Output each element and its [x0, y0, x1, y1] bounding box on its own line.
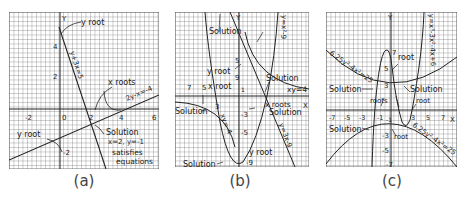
y-tick: -5 [382, 147, 389, 155]
y-axis-label: Y [61, 15, 67, 23]
y-tick: 9 [235, 74, 239, 82]
y-tick: 3 [384, 82, 388, 90]
y-tick: 7 [392, 49, 396, 57]
annotation-y-root: y root [17, 130, 40, 139]
panel-c: Y X -7 -5 -3 -1 3 5 7 7 5 3 -1 -3 -5 -7 … [326, 12, 457, 167]
x-tick: 4 [119, 114, 124, 122]
y-axis-label: Y [387, 14, 393, 22]
annotation-solution: Solution [329, 125, 362, 134]
annotation-root: root [398, 53, 414, 62]
y-tick: -5 [241, 129, 248, 137]
x-tick: -1 [377, 114, 383, 122]
annotation-solution: Solution [329, 85, 362, 94]
x-axis-label: X [450, 116, 455, 124]
y-tick: -3 [382, 132, 389, 140]
y-tick: 4 [53, 43, 58, 51]
y-tick: 5 [384, 65, 388, 73]
y-tick: 5 [235, 57, 239, 65]
y-tick: -7 [386, 161, 393, 167]
x-tick: 0 [62, 114, 66, 122]
annotation-y-root: y root [207, 67, 230, 76]
caption-b: (b) [220, 172, 260, 190]
y-tick: 1 [241, 86, 245, 93]
x-axis-label: X [303, 102, 308, 110]
x-tick: -3 [359, 114, 365, 122]
x-tick: 6 [152, 114, 157, 122]
x-tick: -7 [329, 114, 335, 122]
annotation-solution: Solution [209, 27, 242, 36]
curve-label: y=x²-9 [279, 15, 288, 39]
y-axis-label: Y [235, 14, 241, 22]
annotation-solution: Solution [175, 107, 208, 116]
annotation-y-root: y root [249, 148, 272, 157]
annotation-roots: roots [370, 97, 388, 105]
annotation-solution: Solution [183, 160, 216, 167]
annotation-root: root [394, 133, 408, 141]
panel-b: Y X 7 5 5 9 1 3 -3 -5 -9 y=x²-9 xy=4 xy=… [175, 12, 309, 167]
x-tick: -2 [25, 114, 32, 122]
annotation-solution-values: x=2, y=-1 [108, 138, 144, 146]
y-tick: -3 [241, 111, 248, 119]
y-tick: -1 [386, 116, 392, 123]
annotation-x-roots: x roots [108, 78, 135, 87]
x-tick: 5 [426, 114, 430, 122]
annotation-equations: equations [116, 157, 153, 166]
y-tick: -9 [246, 159, 253, 167]
caption-c: (c) [372, 172, 412, 190]
annotation-solution: Solution [410, 85, 443, 94]
panel-a: Y -2 0 2 4 6 4 2 -2 y+3x=5 2y-x=-4 y roo… [9, 12, 159, 169]
x-tick: 5 [202, 84, 206, 92]
annotation-x-root: x root [208, 82, 231, 91]
annotation-y-root: y root [81, 18, 104, 27]
y-tick: 2 [53, 73, 57, 81]
curve-label: xy=4 [287, 85, 307, 94]
y-tick: 3 [215, 103, 219, 111]
x-tick: 7 [187, 84, 191, 92]
y-tick: -2 [63, 149, 70, 157]
annotation-satisfies: satisfies [112, 148, 143, 157]
annotation-solution: Solution [269, 108, 302, 117]
x-tick: 7 [441, 114, 445, 122]
x-tick: -5 [344, 114, 350, 122]
annotation-solution: Solution [266, 74, 299, 83]
x-tick: 2 [89, 114, 93, 122]
annotation-root: root [416, 97, 430, 105]
annotation-solution: Solution [106, 128, 139, 137]
caption-a: (a) [64, 172, 104, 190]
